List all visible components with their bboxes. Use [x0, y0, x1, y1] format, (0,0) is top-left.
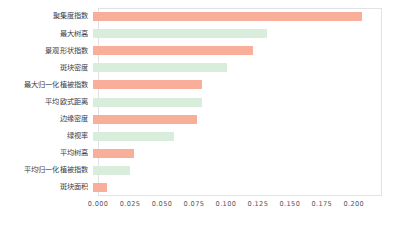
bar-row: 边缘密度: [0, 111, 397, 128]
bar-category-label: 最大归一化植被指数: [0, 81, 93, 89]
bar-track: [93, 145, 377, 162]
x-tick-label: 0.000: [88, 200, 109, 208]
bar-track: [93, 179, 377, 196]
bar: [93, 80, 202, 89]
x-tick-label: 0.150: [280, 200, 301, 208]
bar-track: [93, 42, 377, 59]
x-tick-label: 0.175: [312, 200, 333, 208]
bar-row: 聚集度指数: [0, 8, 397, 25]
bar-category-label: 景观形状指数: [0, 47, 93, 55]
bar-category-label: 平均树高: [0, 149, 93, 157]
bar-row: 斑块面积: [0, 179, 397, 196]
bar-row: 平均欧式距离: [0, 93, 397, 110]
x-tick-label: 0.100: [216, 200, 237, 208]
bar: [93, 63, 227, 72]
bar-track: [93, 25, 377, 42]
bar-track: [93, 111, 377, 128]
bar: [93, 115, 197, 124]
bar-track: [93, 76, 377, 93]
bar-category-label: 平均欧式距离: [0, 98, 93, 106]
bar-row: 斑块密度: [0, 59, 397, 76]
bar-row: 最大树高: [0, 25, 397, 42]
bar: [93, 98, 202, 107]
bar-row: 景观形状指数: [0, 42, 397, 59]
bar-category-label: 最大树高: [0, 30, 93, 38]
bar: [93, 149, 134, 158]
x-tick-label: 0.050: [152, 200, 173, 208]
x-axis: 0.0000.0250.0500.0750.1000.1250.1500.175…: [98, 196, 382, 216]
bar-rows: 聚集度指数最大树高景观形状指数斑块密度最大归一化植被指数平均欧式距离边缘密度绿视…: [0, 8, 397, 196]
bar: [93, 29, 267, 38]
bar-category-label: 绿视率: [0, 132, 93, 140]
bar-track: [93, 162, 377, 179]
bar-track: [93, 128, 377, 145]
bar-track: [93, 8, 377, 25]
bar: [93, 183, 107, 192]
bar-category-label: 聚集度指数: [0, 12, 93, 20]
bar: [93, 132, 174, 141]
bar-row: 平均树高: [0, 145, 397, 162]
bar-row: 平均归一化植被指数: [0, 162, 397, 179]
bar: [93, 46, 253, 55]
x-tick-label: 0.200: [344, 200, 365, 208]
x-tick-label: 0.025: [120, 200, 141, 208]
bar-row: 最大归一化植被指数: [0, 76, 397, 93]
x-tick-label: 0.125: [248, 200, 269, 208]
bar-track: [93, 93, 377, 110]
x-tick-label: 0.075: [184, 200, 205, 208]
bar-category-label: 平均归一化植被指数: [0, 166, 93, 174]
bar-category-label: 斑块密度: [0, 64, 93, 72]
bar-category-label: 边缘密度: [0, 115, 93, 123]
bar: [93, 166, 130, 175]
horizontal-bar-chart: 聚集度指数最大树高景观形状指数斑块密度最大归一化植被指数平均欧式距离边缘密度绿视…: [0, 0, 397, 227]
bar: [93, 12, 362, 21]
bar-row: 绿视率: [0, 128, 397, 145]
bar-category-label: 斑块面积: [0, 183, 93, 191]
bar-track: [93, 59, 377, 76]
